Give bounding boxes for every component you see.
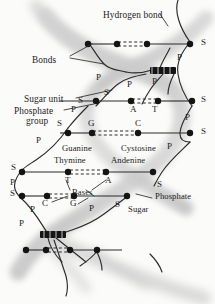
sugar-marker-right-3: S — [201, 127, 206, 136]
dna-helix-illustration — [0, 0, 215, 304]
leader-bases-c — [52, 196, 68, 202]
sugar-marker-center-1: S — [104, 88, 109, 97]
base-letter-T-top: T — [152, 105, 158, 114]
label-sugar-unit: Sugar unit — [24, 95, 63, 105]
phosphate-marker-center-4: P — [89, 204, 94, 213]
label-andenine: Andenine — [111, 156, 145, 165]
sugar-marker-left-2: S — [57, 119, 62, 128]
phosphate-marker-left-3: P — [10, 178, 15, 187]
label-bases: Bases — [72, 188, 93, 197]
base-letter-A-low: A — [105, 176, 112, 185]
label-sugar-right: Sugar — [128, 205, 149, 214]
sugar-marker-left-4: S — [10, 189, 15, 198]
phosphate-marker-right-1: P — [177, 53, 182, 62]
base-letter-C-mid: C — [135, 119, 141, 128]
base-letter-G-mid: G — [88, 119, 95, 128]
dna-diagram-canvas: Hydrogen bond Bonds Sugar unit Phosphate… — [0, 0, 215, 304]
phosphate-marker-center-1: P — [96, 73, 101, 82]
hydrogen-bond-dashes-ta-lower — [70, 170, 105, 174]
base-letter-T-low: T — [65, 176, 71, 185]
phosphate-marker-center-3: P — [152, 77, 157, 86]
label-guanine: Guanine — [62, 144, 92, 153]
phosphate-marker-left-2: P — [36, 136, 41, 145]
phosphate-marker-left-1: P — [71, 105, 76, 114]
sugar-marker-right-1: S — [201, 38, 206, 47]
sugar-marker-right-4: S — [157, 180, 162, 189]
sugar-marker-right-2: S — [201, 95, 206, 104]
phosphate-marker-right-2: P — [185, 113, 190, 122]
phosphate-marker-center-5: P — [30, 205, 35, 214]
sugar-marker-left-3: S — [11, 163, 16, 172]
base-letter-G-bot: G — [70, 199, 77, 208]
base-letter-A-top: A — [130, 105, 137, 114]
label-cystosine: Cystosine — [121, 144, 156, 153]
base-letter-C-bot: C — [42, 199, 48, 208]
hydrogen-bond-dashes-top — [118, 42, 146, 46]
crossover-bar-upper — [150, 67, 176, 74]
hydrogen-bond-dashes-cg-bottom — [49, 194, 72, 198]
phosphate-marker-right-3: P — [167, 142, 172, 151]
label-thymine: Thymine — [54, 156, 86, 165]
label-bonds: Bonds — [32, 56, 56, 66]
label-phosphate-group-line2: group — [26, 117, 48, 127]
phosphate-marker-center-2: P — [127, 80, 132, 89]
sugar-marker-left-1: S — [78, 96, 83, 105]
sugar-marker-center-2: S — [115, 200, 120, 209]
leader-bases-a — [92, 180, 106, 190]
label-hydrogen-bond: Hydrogen bond — [103, 11, 162, 21]
phosphate-marker-left-4: P — [19, 219, 24, 228]
label-phosphate-right: Phosphate — [155, 192, 191, 201]
